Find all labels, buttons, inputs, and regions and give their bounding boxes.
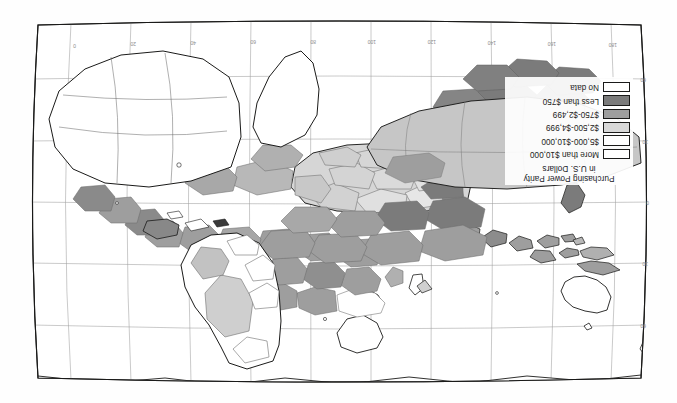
legend-swatch	[603, 122, 630, 133]
legend-entry-label: $2,500-$4,999	[546, 122, 599, 132]
legend-entry[interactable]: No data	[508, 80, 630, 93]
legend-swatch	[603, 135, 630, 146]
legend-entry-label: More than $10,000	[530, 149, 599, 159]
graticule-latitude-label: 30	[643, 139, 648, 145]
graticule-latitude-label: 30	[643, 261, 648, 267]
legend-entry[interactable]: More than $10,000	[508, 147, 630, 160]
graticule-longitude-label: 60	[251, 39, 256, 45]
map-figure: 180 160 140 120 100 80 60 40 20 0 60 30 …	[0, 0, 677, 403]
legend-swatch	[603, 109, 630, 120]
legend-swatch	[603, 149, 630, 160]
legend-entry-label: $5,000-$10,000	[541, 136, 599, 146]
graticule-latitude-label: 60	[641, 323, 646, 329]
legend-title-line1: Purchasing Power Parity	[508, 173, 630, 183]
legend-swatch	[603, 82, 630, 93]
legend-entry[interactable]: Less than $750	[508, 94, 630, 107]
graticule-longitude-label: 100	[368, 39, 376, 45]
graticule-longitude-label: 40	[191, 40, 196, 46]
graticule-latitude-label: 0	[646, 200, 649, 206]
legend-entry[interactable]: $2,500-$4,999	[508, 121, 630, 134]
graticule-longitude-label: 140	[488, 40, 496, 46]
legend-swatch	[603, 95, 630, 106]
legend-entry-label: No data	[570, 82, 599, 92]
graticule-longitude-label: 180	[609, 42, 617, 48]
legend-title-line2: in U.S. Dollars	[508, 164, 630, 174]
map-legend: Purchasing Power Parity in U.S. Dollars …	[505, 77, 633, 185]
rotated-plate: 180 160 140 120 100 80 60 40 20 0 60 30 …	[0, 0, 677, 403]
legend-entry-label: $750-$2,499	[553, 109, 599, 119]
legend-entry[interactable]: $750-$2,499	[508, 107, 630, 120]
graticule-longitude-label: 20	[131, 41, 136, 47]
graticule-latitude-label: 60	[641, 77, 646, 83]
legend-entry-label: Less than $750	[543, 96, 599, 106]
world-map	[0, 0, 677, 403]
legend-entry[interactable]: $5,000-$10,000	[508, 134, 630, 147]
graticule-longitude-label: 80	[311, 39, 316, 45]
graticule-longitude-label: 0	[73, 43, 76, 49]
legend-title: Purchasing Power Parity in U.S. Dollars	[508, 164, 630, 183]
graticule-longitude-label: 120	[428, 39, 436, 45]
graticule-longitude-label: 160	[548, 41, 556, 47]
